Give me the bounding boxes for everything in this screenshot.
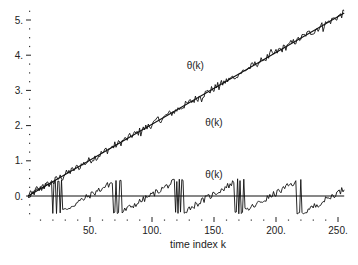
y-tick-label: 2. [15, 120, 23, 131]
x-tick-label: 50. [83, 225, 97, 236]
y-tick-label: 0. [15, 191, 23, 202]
y-tick-label: 5. [15, 15, 23, 26]
series-label-theta: θ(k) [205, 169, 222, 180]
y-axis: 0.1.2.3.4.5. [15, 11, 31, 215]
x-tick-label: 250. [328, 225, 347, 236]
y-tick-label: 3. [15, 85, 23, 96]
phase-chart: 0.1.2.3.4.5. 50.100.150.200.250. θ(k)θ(k… [0, 0, 358, 265]
x-axis: 50.100.150.200.250. [40, 217, 348, 236]
x-axis-title: time index k [170, 238, 227, 250]
noisy-phase-line [28, 10, 344, 197]
series-labels: θ(k)θ(k)θ(k) [187, 60, 223, 180]
x-tick-label: 200. [266, 225, 285, 236]
series-label-theta: θ(k) [205, 117, 222, 128]
y-tick-label: 1. [15, 155, 23, 166]
series-label-theta: θ(k) [187, 60, 204, 71]
y-tick-label: 4. [15, 50, 23, 61]
x-tick-label: 150. [204, 225, 223, 236]
x-tick-label: 100. [142, 225, 161, 236]
